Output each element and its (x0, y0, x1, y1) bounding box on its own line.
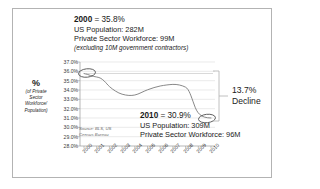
annotation-2000-note: (excluding 10M government contractors) (74, 44, 188, 51)
source-note-line-1: Source: BLS, US (79, 126, 111, 132)
x-tick-label: 2008 (182, 142, 194, 154)
annotation-2010-population: US Population: 309M (140, 121, 241, 131)
x-tick-label: 2009 (195, 142, 207, 154)
annotation-2000: 2000 = 35.8% US Population: 282M Private… (74, 15, 188, 51)
x-tick-label: 2005 (144, 142, 156, 154)
x-tick-label: 2004 (131, 142, 143, 154)
decline-callout: 13.7% Decline (232, 85, 261, 107)
decline-value: 13.7% (232, 85, 261, 96)
annotation-2000-year: 2000 (74, 15, 92, 24)
annotation-2010-workforce: Private Sector Workforce: 96M (140, 130, 241, 140)
annotation-2010-year: 2010 (140, 111, 158, 120)
x-tick-label: 2000 (81, 142, 93, 154)
annotation-2000-population: US Population: 282M (74, 25, 188, 35)
annotation-2000-headline: 2000 = 35.8% (74, 15, 188, 25)
annotation-2010-equals: = (158, 111, 167, 120)
annotation-2010-headline: 2010 = 30.9% (140, 111, 241, 121)
x-tick-label: 2010 (208, 142, 220, 154)
annotation-2010: 2010 = 30.9% US Population: 309M Private… (140, 111, 241, 140)
source-note-line-2: Census Bureau (79, 132, 111, 138)
x-tick-label: 2001 (93, 142, 105, 154)
x-tick-label: 2003 (119, 142, 131, 154)
x-tick-label: 2006 (157, 142, 169, 154)
annotation-2000-equals: = (92, 15, 101, 24)
annotation-2000-value: 35.8% (102, 15, 125, 24)
annotation-2010-value: 30.9% (168, 111, 191, 120)
x-tick-label: 2007 (169, 142, 181, 154)
source-note: Source: BLS, US Census Bureau (79, 126, 111, 137)
decline-label: Decline (232, 96, 261, 107)
annotation-2000-workforce: Private Sector Workforce: 99M (74, 34, 188, 44)
x-tick-label: 2002 (106, 142, 118, 154)
